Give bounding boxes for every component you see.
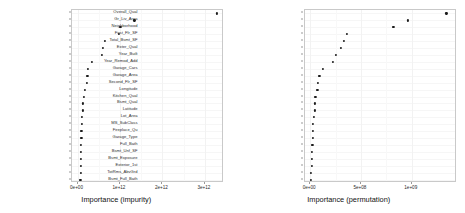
y-tick-mark (69, 67, 71, 68)
y-axis-labels-permutation: Overall_QualGr_Liv_AreaNeighborhoodFirst… (233, 0, 302, 213)
y-tick-mark (301, 109, 303, 110)
gridline-horizontal (305, 138, 455, 139)
panel-permutation: Overall_QualGr_Liv_AreaNeighborhoodFirst… (233, 0, 465, 213)
gridline-horizontal (305, 13, 455, 14)
y-tick-mark (69, 53, 71, 54)
y-tick-label: Exterior_1st (115, 163, 137, 167)
y-tick-label: Full_Bath (120, 142, 137, 146)
gridline-horizontal (72, 34, 222, 35)
x-tick-label: 3e+12 (197, 186, 210, 191)
y-tick-mark (69, 81, 71, 82)
y-tick-label: Kitchen_Qual (113, 93, 138, 97)
gridline-horizontal (72, 76, 222, 77)
gridline-vertical-minor (99, 10, 100, 181)
gridline-horizontal (72, 110, 222, 111)
gridline-horizontal (72, 103, 222, 104)
y-tick-mark (301, 33, 303, 34)
gridline-horizontal (305, 48, 455, 49)
gridline-horizontal (72, 145, 222, 146)
y-tick-mark (69, 95, 71, 96)
gridline-horizontal (72, 180, 222, 181)
x-tick-label: 1e+12 (113, 186, 126, 191)
gridline-horizontal (305, 55, 455, 56)
gridline-horizontal (72, 124, 222, 125)
y-tick-label: Overall_Qual (113, 10, 137, 14)
y-tick-mark (301, 164, 303, 165)
y-tick-label: Gr_Liv_Area (114, 17, 137, 21)
y-tick-label: Bsmt_Full_Bath (108, 176, 137, 180)
y-tick-mark (301, 150, 303, 151)
gridline-horizontal (72, 97, 222, 98)
y-tick-mark (69, 171, 71, 172)
y-tick-mark (69, 123, 71, 124)
y-tick-mark (301, 40, 303, 41)
y-tick-mark (301, 143, 303, 144)
gridline-horizontal (305, 97, 455, 98)
y-tick-mark (301, 26, 303, 27)
gridline-vertical-minor (336, 10, 337, 181)
y-tick-mark (301, 137, 303, 138)
y-tick-mark (69, 178, 71, 179)
y-tick-mark (301, 130, 303, 131)
y-tick-mark (69, 157, 71, 158)
gridline-horizontal (305, 152, 455, 153)
y-tick-mark (301, 67, 303, 68)
gridline-horizontal (72, 48, 222, 49)
y-tick-label: Second_Flr_SF (109, 80, 138, 84)
gridline-horizontal (72, 83, 222, 84)
y-tick-mark (301, 157, 303, 158)
y-tick-mark (69, 102, 71, 103)
gridline-vertical (78, 10, 79, 181)
y-tick-label: Year_Remod_Add (104, 59, 138, 63)
gridline-horizontal (305, 20, 455, 21)
plot-area-permutation (304, 9, 456, 182)
gridline-horizontal (72, 41, 222, 42)
y-tick-label: TotRms_AbvGrd (107, 170, 137, 174)
y-tick-mark (301, 178, 303, 179)
gridline-horizontal (72, 27, 222, 28)
y-tick-mark (301, 12, 303, 13)
gridline-vertical (205, 10, 206, 181)
y-tick-mark (301, 81, 303, 82)
gridline-horizontal (305, 173, 455, 174)
x-tick-label: 5e+08 (353, 186, 366, 191)
gridline-vertical-minor (141, 10, 142, 181)
y-tick-mark (301, 171, 303, 172)
y-tick-mark (69, 164, 71, 165)
x-tick-label: 1e+09 (404, 186, 417, 191)
y-tick-mark (69, 109, 71, 110)
y-tick-label: Garage_Area (113, 73, 138, 77)
y-tick-mark (301, 88, 303, 89)
gridline-vertical-minor (184, 10, 185, 181)
gridline-horizontal (72, 159, 222, 160)
x-tick-label: 2e+12 (155, 186, 168, 191)
y-tick-mark (301, 102, 303, 103)
x-axis-title-permutation: Importance (permutation) (233, 196, 465, 203)
gridline-horizontal (72, 90, 222, 91)
gridline-horizontal (72, 152, 222, 153)
y-tick-mark (69, 116, 71, 117)
y-tick-mark (69, 74, 71, 75)
y-tick-label: Garage_Cars (113, 66, 138, 70)
y-tick-label: Lot_Area (121, 114, 138, 118)
gridline-horizontal (305, 131, 455, 132)
y-tick-label: Garage_Type (112, 135, 137, 139)
gridline-horizontal (305, 41, 455, 42)
gridline-horizontal (305, 180, 455, 181)
y-tick-label: Neighborhood (112, 24, 138, 28)
y-tick-label: First_Flr_SF (115, 31, 138, 35)
variable-importance-figure: Overall_QualNeighborhoodExter_QualGr_Liv… (0, 0, 465, 213)
y-tick-label: Exter_Qual (117, 45, 138, 49)
gridline-horizontal (305, 69, 455, 70)
y-tick-label: Bsmt_Exposure (108, 156, 137, 160)
y-tick-mark (69, 143, 71, 144)
y-tick-mark (301, 95, 303, 96)
gridline-horizontal (305, 76, 455, 77)
gridline-horizontal (305, 34, 455, 35)
y-tick-mark (69, 12, 71, 13)
gridline-vertical (162, 10, 163, 181)
y-tick-mark (69, 88, 71, 89)
gridline-horizontal (72, 138, 222, 139)
gridline-horizontal (72, 131, 222, 132)
gridline-horizontal (305, 110, 455, 111)
